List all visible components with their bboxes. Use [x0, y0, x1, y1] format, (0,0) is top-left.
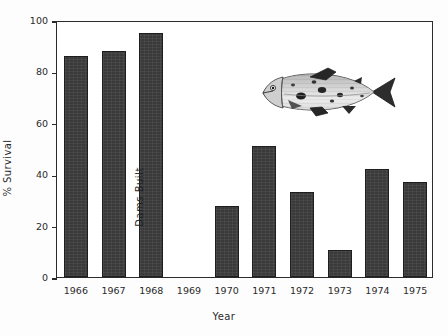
y-axis-title: % Survival: [2, 108, 13, 228]
y-tick-label: 60: [36, 118, 48, 129]
y-tick-mark: [52, 176, 57, 177]
x-tick-label: 1968: [131, 285, 171, 296]
plot-area: 020406080100 196619671968196919701971197…: [56, 21, 433, 278]
y-tick-label: 40: [36, 169, 48, 180]
bar: [215, 206, 239, 277]
x-tick-label: 1971: [244, 285, 284, 296]
bar: [252, 146, 276, 277]
y-tick-mark: [52, 124, 57, 125]
bar: [64, 56, 88, 277]
bar: [365, 169, 389, 277]
y-tick-mark: [52, 21, 57, 22]
y-tick-mark: [52, 227, 57, 228]
x-tick-label: 1969: [169, 285, 209, 296]
salmon-fish-icon: [254, 66, 400, 118]
x-tick-label: 1972: [282, 285, 322, 296]
x-axis-title: Year: [0, 311, 448, 322]
bar: [290, 192, 314, 277]
salmon-survival-bar-chart: % Survival 020406080100 1966196719681969…: [0, 0, 448, 336]
x-tick-label: 1966: [56, 285, 96, 296]
bar: [403, 182, 427, 277]
y-tick-label: 80: [36, 66, 48, 77]
bar: [102, 51, 126, 277]
y-tick-label: 0: [42, 272, 48, 283]
y-tick-label: 20: [36, 221, 48, 232]
x-tick-label: 1974: [357, 285, 397, 296]
bar: [328, 250, 352, 277]
y-tick-label: 100: [30, 15, 48, 26]
y-tick-mark: [52, 278, 57, 279]
x-tick-label: 1975: [395, 285, 435, 296]
x-tick-label: 1973: [320, 285, 360, 296]
x-tick-label: 1967: [94, 285, 134, 296]
y-tick-mark: [52, 73, 57, 74]
x-tick-label: 1970: [207, 285, 247, 296]
dams-built-annotation: Dams Built: [134, 142, 145, 252]
